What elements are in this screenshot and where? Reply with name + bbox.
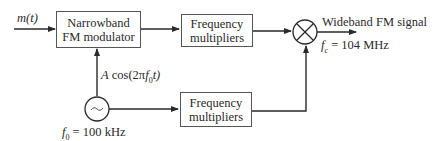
block-label-line2: FM modulator (62, 30, 135, 44)
narrowband-fm-modulator-block: Narrowband FM modulator (56, 11, 141, 48)
mixer-icon (293, 20, 317, 44)
carrier-expression-label: A cos(2πf0t) (101, 68, 160, 88)
oscillator-icon (85, 97, 109, 121)
block-label-line2: multipliers (189, 110, 243, 124)
block-label-line2: multipliers (190, 31, 244, 45)
block-label-line1: Frequency (191, 17, 244, 31)
block-label-line1: Narrowband (67, 16, 129, 30)
mult2-to-mixer-arrow (252, 46, 306, 111)
oscillator-frequency-label: f0 = 100 kHz (62, 125, 125, 141)
input-signal-label: m(t) (17, 11, 38, 25)
frequency-multipliers-bottom-block: Frequency multipliers (180, 92, 252, 127)
block-label-line1: Frequency (190, 96, 243, 110)
frequency-multipliers-top-block: Frequency multipliers (181, 14, 253, 47)
output-signal-label: Wideband FM signal (322, 15, 427, 29)
carrier-frequency-label: fc = 104 MHz (321, 38, 389, 58)
